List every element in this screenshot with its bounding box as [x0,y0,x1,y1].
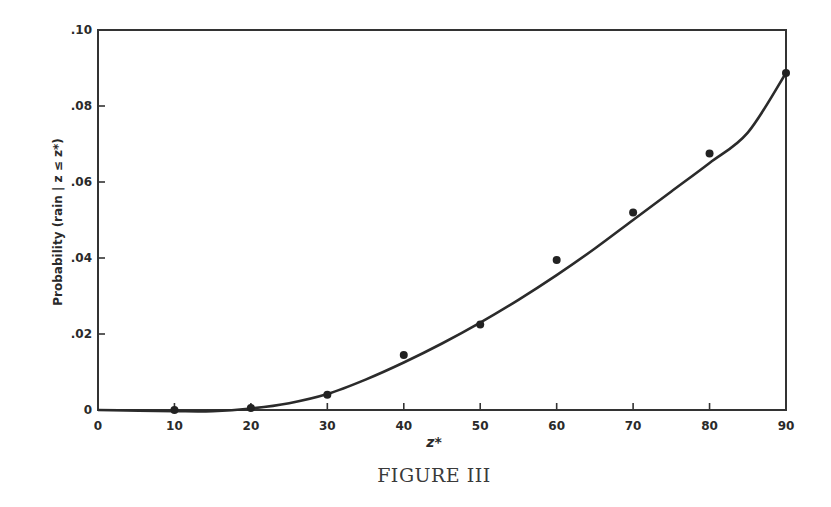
x-tick-label: 90 [778,419,795,433]
data-point [247,404,255,412]
x-tick-label: 10 [166,419,183,433]
y-tick-label: .02 [71,327,92,341]
plot-frame [98,30,786,410]
fitted-curve [98,73,786,411]
x-tick-label: 0 [94,419,102,433]
data-point [476,321,484,329]
data-point [706,150,714,158]
figure-caption: FIGURE III [377,464,491,486]
data-point [629,208,637,216]
y-axis: 0.02.04.06.08.10 [71,23,105,417]
fitted-curve-line [98,73,786,411]
data-point [782,69,790,77]
data-point [400,351,408,359]
x-tick-label: 30 [319,419,336,433]
plot-border [98,30,786,410]
x-axis: 0102030405060708090 [94,403,795,433]
y-tick-label: .10 [71,23,92,37]
x-tick-label: 80 [701,419,718,433]
y-tick-label: .06 [71,175,92,189]
figure-chart: 0.02.04.06.08.10 0102030405060708090 Pro… [0,0,831,507]
x-tick-label: 60 [548,419,565,433]
x-axis-label: z* [425,434,442,450]
x-tick-label: 20 [243,419,260,433]
y-tick-label: 0 [84,403,92,417]
data-point [323,391,331,399]
y-axis-label: Probability (rain | z ≤ z*) [51,138,65,305]
y-tick-label: .04 [71,251,92,265]
data-points [170,69,790,414]
x-tick-label: 40 [395,419,412,433]
x-tick-label: 50 [472,419,489,433]
data-point [170,406,178,414]
data-point [553,256,561,264]
x-tick-label: 70 [625,419,642,433]
y-tick-label: .08 [71,99,92,113]
